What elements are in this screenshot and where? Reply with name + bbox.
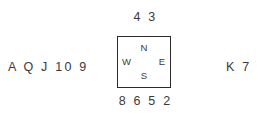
compass-north-label: N [141,43,148,53]
hand-east: K 7 [226,61,251,74]
hand-north: 4 3 [0,11,259,24]
compass-east-label: E [159,57,165,67]
bridge-hand-diagram: 4 3 A Q J 10 9 N W E S K 7 8 6 5 2 [0,0,259,116]
hand-west: A Q J 10 9 [8,61,88,74]
compass-south-label: S [141,71,147,81]
compass-west-label: W [122,57,131,67]
compass-box: N W E S [117,36,171,88]
hand-south: 8 6 5 2 [0,95,259,108]
